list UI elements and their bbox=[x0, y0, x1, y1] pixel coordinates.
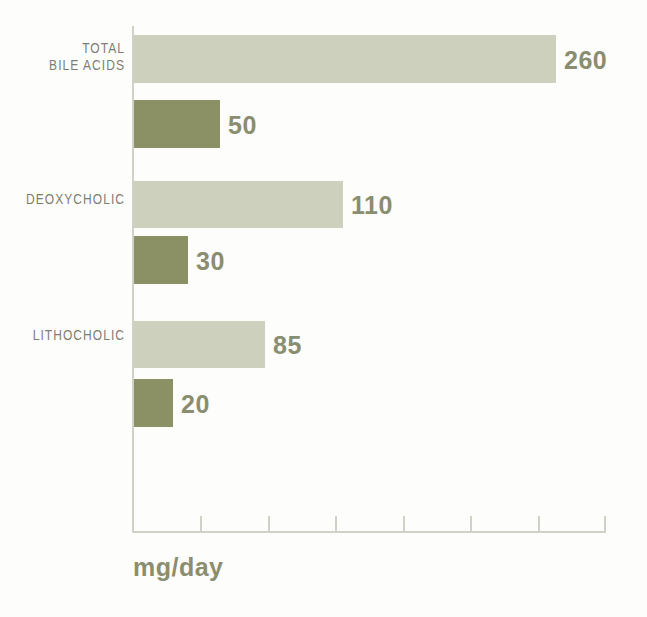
bar-value-20: 20 bbox=[181, 390, 210, 419]
x-axis-tick-4 bbox=[403, 516, 405, 532]
chart-page: TOTAL BILE ACIDS 260 50 DEOXYCHOLIC 110 … bbox=[0, 0, 647, 617]
x-axis-tick-6 bbox=[538, 516, 540, 532]
bar-value-85: 85 bbox=[273, 331, 302, 360]
bar-value-110: 110 bbox=[351, 191, 393, 220]
category-label-total-bile-acids: TOTAL BILE ACIDS bbox=[18, 40, 126, 74]
bar-value-50: 50 bbox=[228, 111, 257, 140]
bar-value-260: 260 bbox=[564, 46, 607, 75]
bar-lithocholic-light bbox=[134, 321, 265, 368]
x-axis-tick-3 bbox=[335, 516, 337, 532]
bar-chart: TOTAL BILE ACIDS 260 50 DEOXYCHOLIC 110 … bbox=[0, 0, 647, 617]
bar-value-30: 30 bbox=[196, 247, 225, 276]
bar-lithocholic-dark bbox=[134, 379, 173, 427]
x-axis-tick-1 bbox=[200, 516, 202, 532]
x-axis-title: mg/day bbox=[133, 553, 224, 582]
bar-total-bile-acids-light bbox=[134, 35, 556, 83]
x-axis-tick-7 bbox=[604, 516, 606, 532]
bar-total-bile-acids-dark bbox=[134, 100, 220, 148]
bar-deoxycholic-dark bbox=[134, 236, 188, 284]
x-axis-tick-0 bbox=[132, 516, 134, 532]
x-axis-tick-5 bbox=[470, 516, 472, 532]
x-axis-line bbox=[132, 531, 606, 533]
x-axis-tick-2 bbox=[268, 516, 270, 532]
category-label-lithocholic: LITHOCHOLIC bbox=[18, 327, 126, 344]
bar-deoxycholic-light bbox=[134, 181, 343, 228]
category-label-deoxycholic: DEOXYCHOLIC bbox=[18, 191, 126, 208]
